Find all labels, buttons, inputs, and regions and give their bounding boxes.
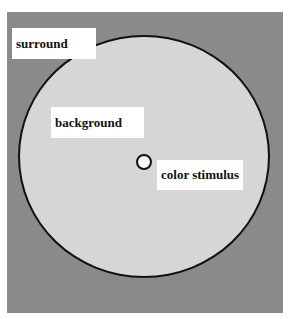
stimulus-label-text: color stimulus	[161, 167, 239, 183]
stimulus-label: color stimulus	[157, 160, 243, 190]
background-label: background	[51, 107, 144, 138]
background-label-text: background	[55, 115, 122, 131]
surround-label-text: surround	[16, 36, 68, 52]
color-stimulus-circle	[136, 154, 152, 170]
surround-label: surround	[12, 28, 96, 59]
